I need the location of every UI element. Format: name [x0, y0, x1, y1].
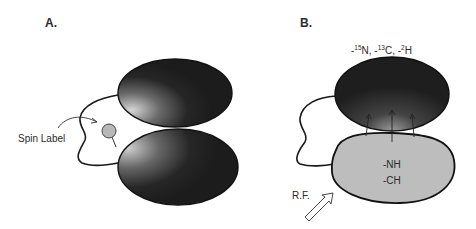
panel-b-label: B. [300, 16, 312, 30]
group-nh: -NH [383, 159, 401, 170]
spin-label-text: Spin Label [18, 133, 65, 144]
linker-loop-b [297, 96, 336, 166]
rf-label: R.F. [292, 190, 310, 201]
spin-label-circle [102, 124, 116, 138]
group-ch: -CH [383, 175, 401, 186]
domain-top-a [118, 59, 232, 127]
panel-a: A. Spin Label [18, 16, 238, 205]
panel-b: B. -15N, -13C, -2H -NH -CH R.F. [292, 16, 455, 221]
diagram-canvas: A. Spin Label B. -15N, -13C, -2H [0, 0, 476, 229]
isotope-label: -15N, -13C, -2H [351, 44, 412, 56]
domain-bottom-a [118, 129, 238, 205]
spin-label-tether [112, 137, 116, 147]
panel-a-label: A. [45, 16, 57, 30]
